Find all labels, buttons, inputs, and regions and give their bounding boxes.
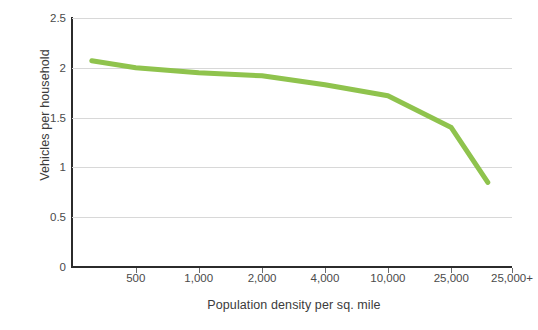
x-tick-label: 1,000 (164, 272, 234, 284)
y-tick-label: 0 (6, 261, 66, 273)
y-axis-tick-labels: 00.511.522.5 (0, 18, 66, 267)
x-tick-label: 25,000+ (477, 272, 538, 284)
y-tick-label: 0.5 (6, 211, 66, 223)
x-tick-label: 4,000 (290, 272, 360, 284)
y-tick-label: 1 (6, 161, 66, 173)
line-series-vehicles-per-household (72, 18, 512, 267)
y-tick-label: 2 (6, 62, 66, 74)
y-tick-label: 2.5 (6, 12, 66, 24)
x-tick-label: 25,000 (416, 272, 486, 284)
series-polyline (92, 61, 488, 183)
x-tick-label: 500 (101, 272, 171, 284)
plot-area (72, 18, 512, 267)
x-axis-tick-labels: 5001,0002,0004,00010,00025,00025,000+ (72, 272, 512, 288)
x-axis-title: Population density per sq. mile (70, 298, 518, 312)
x-tick-label: 2,000 (227, 272, 297, 284)
y-tick-label: 1.5 (6, 112, 66, 124)
x-tick-label: 10,000 (353, 272, 423, 284)
